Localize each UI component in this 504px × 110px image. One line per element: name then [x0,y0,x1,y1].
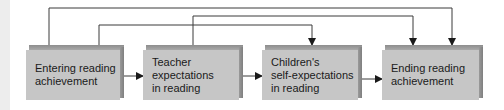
node-label: Entering reading achievement [35,62,116,88]
edge-entering-to-ending [49,8,452,45]
node-label: Children's self-expectations in reading [271,56,354,95]
box-face: Teacher expectations in reading [143,50,239,100]
node-entering-reading-achievement: Entering reading achievement [26,45,124,100]
box-side-bevel [239,47,243,98]
node-label: Teacher expectations in reading [152,56,214,95]
box-side-bevel [120,47,124,98]
edge-teacher-to-ending [193,16,413,45]
node-label: Ending reading achievement [391,62,465,88]
box-face: Children's self-expectations in reading [262,50,358,100]
node-children-self-expectations: Children's self-expectations in reading [262,45,362,100]
node-teacher-expectations: Teacher expectations in reading [143,45,243,100]
edge-entering-to-children [99,25,312,45]
box-side-bevel [479,47,483,98]
node-ending-reading-achievement: Ending reading achievement [382,45,483,100]
box-face: Ending reading achievement [382,50,479,100]
box-side-bevel [358,47,362,98]
box-face: Entering reading achievement [26,50,120,100]
